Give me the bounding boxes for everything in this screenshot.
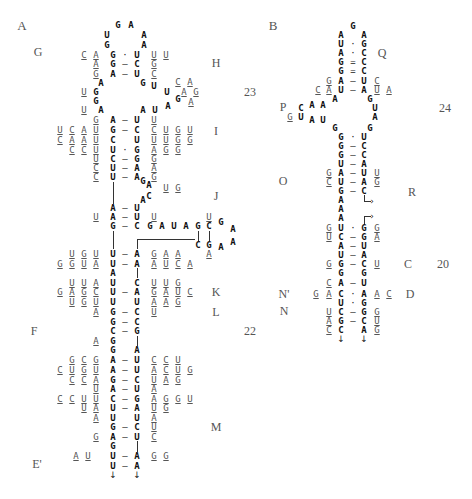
base-pair-bond: – xyxy=(350,85,355,95)
nucleotide: U xyxy=(108,172,118,182)
nucleotide: A xyxy=(149,365,159,375)
nucleotide: G xyxy=(173,375,183,385)
nucleotide: G xyxy=(185,135,195,145)
nucleotide: U xyxy=(149,135,159,145)
nucleotide: U xyxy=(149,403,159,413)
nucleotide: A xyxy=(139,30,149,40)
backbone-connector-line xyxy=(137,268,138,278)
nucleotide: C xyxy=(132,125,142,135)
nucleotide: U xyxy=(91,212,101,222)
base-pair-bond: – xyxy=(122,287,127,297)
nucleotide: G xyxy=(108,221,118,231)
nucleotide: U xyxy=(149,422,159,432)
nucleotide: G xyxy=(161,403,171,413)
nucleotide: C xyxy=(149,355,159,365)
nucleotide: C xyxy=(204,221,214,231)
nucleotide: A xyxy=(132,249,142,259)
strand-continuation-arrow-icon: ↓ xyxy=(360,335,368,344)
nucleotide: C xyxy=(173,77,183,87)
nucleotide: A xyxy=(161,297,171,307)
nucleotide: G xyxy=(185,365,195,375)
nucleotide: A xyxy=(161,375,171,385)
nucleotide: C xyxy=(108,326,118,336)
nucleotide: C xyxy=(55,365,65,375)
nucleotide: U xyxy=(79,403,89,413)
nucleotide: A xyxy=(384,85,394,95)
base-pair-bond: – xyxy=(122,259,127,269)
backbone-connector-line xyxy=(209,231,210,241)
nucleotide: A xyxy=(139,40,149,50)
nucleotide: A xyxy=(372,289,382,299)
nucleotide: A xyxy=(185,259,195,269)
base-pair-bond: – xyxy=(122,403,127,413)
region-label: M xyxy=(211,420,222,435)
nucleotide: C xyxy=(173,259,183,269)
nucleotide: A xyxy=(108,115,118,125)
region-label: R xyxy=(408,185,416,200)
nucleotide: A xyxy=(108,365,118,375)
nucleotide: U xyxy=(83,451,93,461)
nucleotide: U xyxy=(161,259,171,269)
nucleotide: A xyxy=(108,69,118,79)
region-label: C xyxy=(404,257,412,272)
nucleotide: A xyxy=(307,100,317,110)
nucleotide: G xyxy=(161,451,171,461)
region-label: E' xyxy=(32,457,42,472)
nucleotide: U xyxy=(91,135,101,145)
nucleotide: G xyxy=(193,221,203,231)
region-label: J xyxy=(214,189,219,204)
nucleotide: G xyxy=(336,268,346,278)
base-pair-bond: – xyxy=(122,69,127,79)
nucleotide: A xyxy=(307,115,317,125)
nucleotide: U xyxy=(150,105,160,115)
nucleotide: U xyxy=(169,221,179,231)
nucleotide: G xyxy=(138,78,148,88)
nucleotide: U xyxy=(162,87,172,97)
nucleotide: G xyxy=(372,325,382,335)
base-pair-bond: – xyxy=(122,172,127,182)
nucleotide: C xyxy=(67,125,77,135)
nucleotide: U xyxy=(132,135,142,145)
nucleotide: C xyxy=(55,394,65,404)
nucleotide: C xyxy=(79,50,89,60)
base-pair-bond: – xyxy=(122,384,127,394)
nucleotide: C xyxy=(359,66,369,76)
base-pair-bond: – xyxy=(122,422,127,432)
nucleotide: G xyxy=(108,441,118,451)
nucleotide: G xyxy=(359,268,369,278)
nucleotide: C xyxy=(132,221,142,231)
nucleotide: A xyxy=(91,307,101,317)
nucleotide: U xyxy=(67,297,77,307)
nucleotide: U xyxy=(55,125,65,135)
nucleotide: U xyxy=(318,115,328,125)
nucleotide: C xyxy=(161,355,171,365)
region-label: N' xyxy=(279,287,290,302)
nucleotide: U xyxy=(185,394,195,404)
base-pair-bond: – xyxy=(122,115,127,125)
nucleotide: G xyxy=(191,87,201,97)
nucleotide: G xyxy=(91,355,101,365)
nucleotide: G xyxy=(108,59,118,69)
nucleotide: A xyxy=(149,259,159,269)
nucleotide: U xyxy=(79,87,89,97)
nucleotide: A xyxy=(91,403,101,413)
nucleotide: U xyxy=(173,365,183,375)
nucleotide: G xyxy=(67,259,77,269)
nucleotide: G xyxy=(79,297,89,307)
region-label: H xyxy=(212,56,221,71)
nucleotide: A xyxy=(126,20,136,30)
nucleotide: A xyxy=(185,77,195,87)
nucleotide: A xyxy=(91,59,101,69)
panel-label: B xyxy=(269,18,278,34)
nucleotide: G xyxy=(67,355,77,365)
nucleotide: C xyxy=(324,325,334,335)
nucleotide: A xyxy=(336,278,346,288)
nucleotide: G xyxy=(108,422,118,432)
nucleotide: G xyxy=(285,112,295,122)
nucleotide: G xyxy=(79,365,89,375)
nucleotide: U xyxy=(132,355,142,365)
nucleotide: C xyxy=(149,125,159,135)
nucleotide: A xyxy=(228,237,238,247)
nucleotide: G xyxy=(372,177,382,187)
nucleotide: U xyxy=(132,384,142,394)
